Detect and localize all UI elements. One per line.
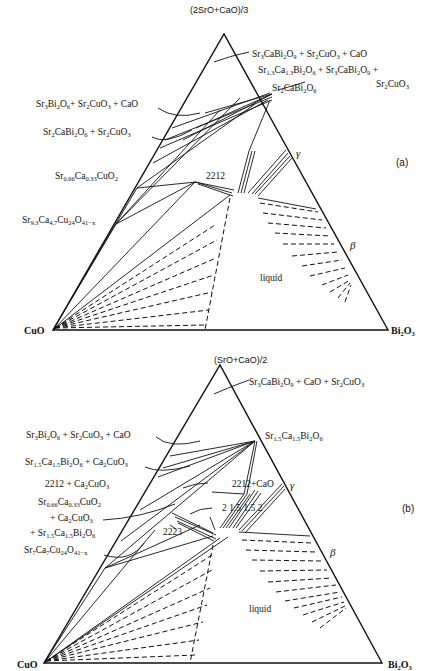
label-b-left-6: + Sr1.5Ca1.5Bi2O6 xyxy=(30,529,95,539)
label-a-top-right-3: Sr2CaBi2O6 xyxy=(272,84,317,94)
label-b-2223: 2223 xyxy=(163,528,182,538)
label-b-left-4: Sr0.66Ca0.33CuO2 xyxy=(38,498,101,508)
label-b-ratios: 2 1.5 1.5 2 xyxy=(222,504,262,514)
label-a-left-2: Sr2CaBi2O6 + Sr2CuO3 xyxy=(43,128,131,138)
label-b-left-3: 2212 + Ca2CuO3 xyxy=(45,480,109,490)
label-a-left-4: Sr9.3Ca4.7Cu24O41−x xyxy=(22,216,95,226)
label-a-left-1: Sr3Bi2O6+ Sr2CuO3 + CaO xyxy=(36,100,138,110)
apex-label-a: (2SrO+CaO)/3 xyxy=(190,6,248,15)
corner-left-b: CuO xyxy=(17,660,38,670)
label-a-2212: 2212 xyxy=(206,172,225,182)
ternary-triangle-b xyxy=(44,365,382,663)
label-a-top-right-2: Sr1.3Ca1.3Bi2O6 + Sr3CaBi2O9 + xyxy=(258,66,378,76)
apex-label-b: (SrO+CaO)/2 xyxy=(214,356,267,365)
corner-right-b: Bi2O3 xyxy=(388,660,412,670)
ternary-triangle-a xyxy=(53,34,388,330)
label-a-beta: β xyxy=(350,240,355,251)
label-b-liquid: liquid xyxy=(249,605,271,615)
label-b-top-right-2: Sr1.5Ca1.5Bi2O6 xyxy=(265,432,323,442)
panel-label-b: (b) xyxy=(402,504,414,514)
label-a-top-right-2b: Sr2CuO3 xyxy=(376,80,409,90)
label-b-2212-cao: 2212+CaO xyxy=(232,480,274,490)
panel-label-a: (a) xyxy=(396,158,408,168)
label-b-left-2: Sr1.5Ca1.5Bi2O6 + Ca2CuO3 xyxy=(25,458,128,468)
label-b-beta: β xyxy=(330,547,335,558)
label-b-left-5: + Ca2CuO3 xyxy=(50,514,93,524)
label-a-liquid: liquid xyxy=(260,274,282,284)
label-a-left-3: Sr0.66Ca0.33CuO2 xyxy=(55,172,118,182)
label-b-left-1: Sr3Bi2O6 + Sr2CuO3 + CaO xyxy=(26,431,131,441)
label-b-top-right-1: Sr3CaBi2O9 + CaO + Sr2CuO3 xyxy=(249,378,364,388)
label-a-gamma: γ xyxy=(296,148,300,159)
label-a-top-right-1: Sr3CaBi2O9 + Sr2CuO3 + CaO xyxy=(252,50,367,60)
corner-right-a: Bi2O3 xyxy=(391,326,415,336)
label-b-gamma: γ xyxy=(290,480,294,491)
label-b-left-7: Sr7Ca7Cu24O41−x xyxy=(24,546,87,556)
corner-left-a: CuO xyxy=(24,326,45,336)
dashed-lines-a xyxy=(55,198,351,330)
